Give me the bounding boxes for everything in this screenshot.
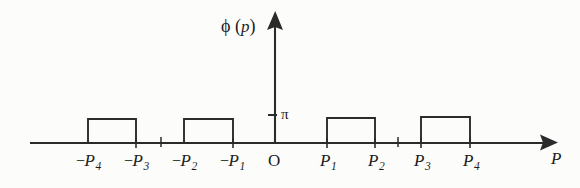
x-tick-label-minus-p3: −P3: [124, 152, 149, 169]
subscript: 2: [192, 160, 198, 172]
minus-sign: −: [124, 152, 133, 169]
base: P: [463, 151, 473, 170]
base: P: [368, 151, 378, 170]
subscript: 4: [96, 160, 102, 172]
minus-sign: −: [172, 152, 181, 169]
bar-p1-p2: [327, 118, 375, 143]
y-axis-label-head: ϕ (: [221, 16, 241, 36]
phase-diagram-figure: ϕ (p) π P O −P4 −P3 −P2 −P1 P1 P2 P3 P4: [0, 0, 580, 188]
x-tick-label-p3: P3: [414, 152, 430, 169]
bar-p3-p4: [421, 117, 470, 143]
base: P: [320, 151, 330, 170]
x-tick-label-minus-p1: −P1: [220, 152, 245, 169]
x-tick-label-minus-p2: −P2: [172, 152, 197, 169]
subscript: 4: [474, 160, 480, 172]
subscript: 1: [331, 160, 337, 172]
bar-minus-p2-p1: [184, 119, 233, 143]
subscript: 1: [240, 160, 246, 172]
subscript: 2: [379, 160, 385, 172]
pi-tick-label: π: [281, 107, 289, 122]
x-tick-label-p1: P1: [320, 152, 336, 169]
bar-minus-p4-p3: [88, 119, 136, 143]
base: P: [414, 151, 424, 170]
pulse-bars: [88, 117, 470, 143]
minus-sign: −: [76, 152, 85, 169]
base: P: [229, 151, 239, 170]
y-axis-label-close: ): [249, 16, 255, 36]
base: P: [133, 151, 143, 170]
base: P: [181, 151, 191, 170]
origin-label: O: [268, 152, 280, 169]
x-tick-label-minus-p4: −P4: [76, 152, 101, 169]
y-axis-label: ϕ (p): [221, 17, 255, 35]
x-tick-label-p2: P2: [368, 152, 384, 169]
subscript: 3: [425, 160, 431, 172]
base: P: [85, 151, 95, 170]
x-axis-label: P: [551, 150, 561, 167]
subscript: 3: [144, 160, 150, 172]
minus-sign: −: [220, 152, 229, 169]
x-tick-label-p4: P4: [463, 152, 479, 169]
